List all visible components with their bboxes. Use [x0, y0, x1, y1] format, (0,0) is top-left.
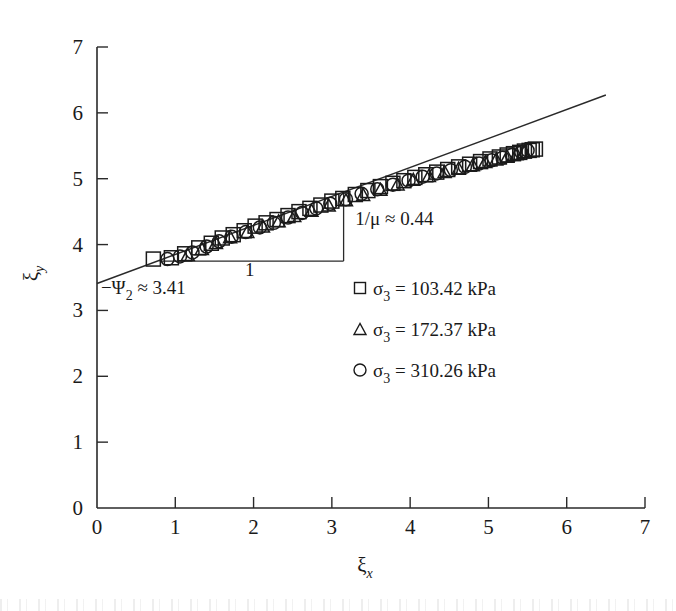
x-tick-label: 6	[561, 515, 572, 539]
legend-sigma-subscript: 3	[383, 330, 390, 345]
annotation-slope: 1/μ ≈ 0.44	[355, 208, 434, 229]
x-tick-label: 5	[483, 515, 494, 539]
annotation-run: 1	[245, 259, 255, 280]
slope-annotation-text: 1/μ ≈ 0.44	[355, 208, 434, 229]
y-tick-label: 3	[73, 298, 84, 322]
y-axis-title-symbol: ξ	[19, 272, 43, 281]
y-tick-label: 2	[73, 364, 84, 388]
legend-sigma-subscript: 3	[383, 289, 390, 304]
figure-container: 01234567 01234567 −Ψ2 ≈ 3.41 1/μ ≈ 0.44 …	[0, 0, 676, 611]
scatter-chart: 01234567 01234567 −Ψ2 ≈ 3.41 1/μ ≈ 0.44 …	[0, 0, 676, 611]
y-tick-label: 7	[73, 35, 84, 59]
run-label-text: 1	[245, 259, 255, 280]
intercept-rest: ≈ 3.41	[137, 277, 185, 298]
x-tick-label: 3	[327, 515, 338, 539]
x-tick-label: 4	[405, 515, 416, 539]
x-axis-title-subscript: x	[366, 566, 374, 581]
x-tick-label: 2	[248, 515, 259, 539]
legend-sigma-subscript: 3	[383, 371, 390, 386]
x-tick-label: 0	[92, 515, 103, 539]
x-tick-label: 1	[170, 515, 181, 539]
legend-value: = 310.26 kPa	[390, 360, 496, 381]
y-tick-label: 1	[73, 430, 84, 454]
x-axis-title-symbol: ξ	[357, 553, 366, 577]
intercept-subscript: 2	[126, 288, 133, 303]
y-tick-label: 0	[73, 496, 84, 520]
legend-sigma-symbol: σ	[373, 360, 383, 381]
legend-value: = 172.37 kPa	[390, 319, 496, 340]
legend-value: = 103.42 kPa	[390, 278, 496, 299]
y-tick-label: 5	[73, 167, 84, 191]
y-tick-label: 6	[73, 101, 84, 125]
legend: σ3 = 103.42 kPaσ3 = 172.37 kPaσ3 = 310.2…	[354, 278, 497, 386]
intercept-symbol: −Ψ	[101, 277, 126, 298]
y-tick-label: 4	[73, 233, 84, 257]
y-axis-title-subscript: y	[32, 265, 47, 274]
legend-sigma-symbol: σ	[373, 319, 383, 340]
legend-sigma-symbol: σ	[373, 278, 383, 299]
x-tick-label: 7	[640, 515, 651, 539]
